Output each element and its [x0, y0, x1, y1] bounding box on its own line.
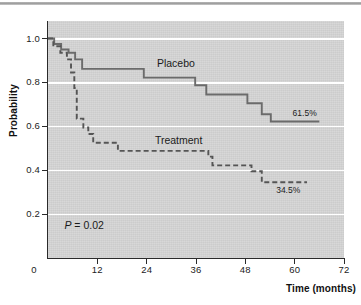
series-label-placebo: Placebo: [157, 57, 195, 69]
kaplan-meier-chart: Probability Time (months) 0.20.40.60.81.…: [0, 0, 361, 305]
series-line-placebo: [48, 39, 319, 122]
series-label-treatment: Treatment: [155, 134, 202, 146]
endpoint-label-placebo: 61.5%: [293, 108, 317, 118]
series-curves: [0, 0, 361, 305]
figure-root: Probability Time (months) 0.20.40.60.81.…: [0, 0, 361, 305]
endpoint-label-treatment: 34.5%: [276, 185, 300, 195]
p-symbol: P: [64, 219, 71, 231]
annotation-p-value: P = 0.02: [64, 219, 103, 231]
